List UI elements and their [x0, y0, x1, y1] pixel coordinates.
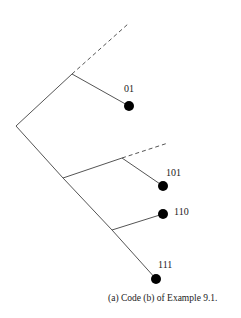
edge-n11-leaf-111: [112, 230, 156, 279]
leaf-node-101: [158, 181, 168, 191]
edge-n10-leaf-101: [122, 158, 163, 186]
edge-n1-n11: [63, 178, 112, 230]
code-tree-diagram: [0, 0, 241, 318]
figure-caption: (a) Code (b) of Example 9.1.: [108, 293, 217, 303]
edge-root-n0: [16, 74, 72, 126]
edge-n11-leaf-110: [112, 214, 163, 230]
dashed-edge-n0: [72, 24, 128, 74]
edge-n0-leaf-01: [72, 74, 129, 106]
leaf-label-01: 01: [124, 84, 134, 94]
dashed-edge-n10: [122, 143, 168, 158]
edge-root-n1: [16, 126, 63, 178]
leaf-label-101: 101: [166, 168, 181, 178]
leaf-label-110: 110: [174, 207, 189, 217]
leaf-node-110: [158, 209, 168, 219]
edge-n1-n10: [63, 158, 122, 178]
leaf-label-111: 111: [158, 260, 172, 270]
leaf-node-01: [124, 101, 134, 111]
leaf-node-111: [151, 274, 161, 284]
